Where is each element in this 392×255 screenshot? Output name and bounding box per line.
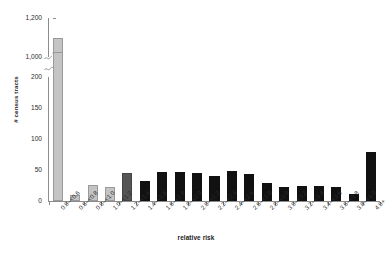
y-axis-ticks: 0501001502001,0001,200 (8, 0, 42, 255)
bar (53, 52, 63, 201)
y-tick-mark (53, 18, 56, 19)
y-tick-label: 0 (8, 198, 42, 205)
x-axis-title: relative risk (0, 234, 392, 241)
y-tick-label: 50 (8, 167, 42, 174)
plot-area (49, 77, 380, 201)
bar-chart: # census tracts 0501001502001,0001,200 0… (0, 0, 392, 255)
y-tick-label: 1,000 (8, 54, 42, 61)
y-tick-mark (53, 201, 56, 202)
x-tick-mark (49, 202, 50, 205)
y-tick-label: 100 (8, 136, 42, 143)
y-tick-label: 1,200 (8, 15, 42, 22)
y-tick-label: 150 (8, 105, 42, 112)
y-axis-line-upper (48, 18, 49, 57)
y-tick-label: 200 (8, 74, 42, 81)
